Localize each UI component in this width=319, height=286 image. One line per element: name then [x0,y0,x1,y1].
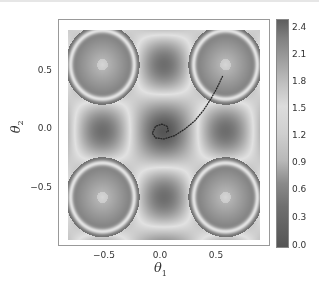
colorbar-tick-2.1: 2.1 [292,49,306,59]
x-tick-neg0.5: −0.5 [87,250,121,260]
colorbar-tick-2.4: 2.4 [292,22,306,32]
colorbar-tick-0.9: 0.9 [292,157,306,167]
colorbar-tick-0.6: 0.6 [292,184,306,194]
trajectory-overlay [0,0,319,286]
colorbar-tick-1.2: 1.2 [292,130,306,140]
colorbar [276,19,289,248]
y-axis-label: θ2 [8,120,26,133]
colorbar-tick-1.5: 1.5 [292,103,306,113]
colorbar-tick-0.3: 0.3 [292,212,306,222]
x-axis-label: θ1 [154,260,167,278]
y-tick-0.0: 0.0 [22,123,52,133]
colorbar-tick-0.0: 0.0 [292,240,306,250]
optimization-trajectory [152,76,222,139]
y-tick-neg0.5: −0.5 [22,182,52,192]
y-tick-0.5: 0.5 [22,65,52,75]
x-tick-0.0: 0.0 [143,250,177,260]
x-tick-0.5: 0.5 [199,250,233,260]
colorbar-tick-1.8: 1.8 [292,76,306,86]
